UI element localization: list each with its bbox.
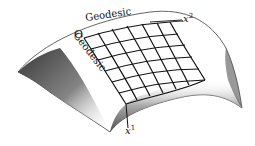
x2-axis-label: x2 (183, 12, 193, 24)
x2-superscript: 2 (189, 12, 193, 20)
x1-superscript: 1 (131, 124, 135, 132)
x1-axis-label: x1 (125, 124, 135, 136)
geodesic-surface-diagram: O Geodesic Geodesic x2 x1 (0, 0, 255, 146)
